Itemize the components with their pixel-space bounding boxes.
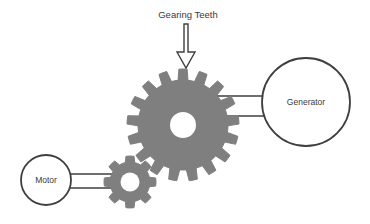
large-gear-hub <box>170 112 196 138</box>
generator-node: Generator <box>262 58 350 146</box>
gearing-teeth-callout: Gearing Teeth <box>158 9 218 68</box>
diagram-canvas: Motor Generator Gearing Teeth <box>0 0 370 224</box>
small-gear-hub <box>121 173 140 192</box>
generator-label: Generator <box>287 97 325 107</box>
gear-train-diagram: Motor Generator Gearing Teeth <box>0 0 370 224</box>
motor-label: Motor <box>35 175 57 185</box>
small-gear <box>104 156 156 208</box>
gearing-teeth-label: Gearing Teeth <box>158 9 218 20</box>
down-arrow-icon <box>177 24 195 68</box>
motor-node: Motor <box>21 155 71 205</box>
